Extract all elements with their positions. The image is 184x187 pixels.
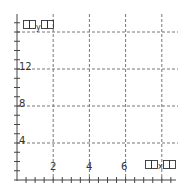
grid-lines [17,14,178,180]
y-tick-label-12: 12 [19,61,32,72]
x-axis-label: x [146,161,176,172]
x-tick-label-2: 2 [50,161,56,172]
coordinate-plot: 2 4 6 12 8 4 y x [0,0,184,187]
svg-text:x: x [158,162,163,171]
x-tick-label-4: 4 [86,161,92,172]
svg-text:y: y [36,23,41,32]
axis-ticks [14,23,171,183]
x-tick-label-6: 6 [121,161,127,172]
y-axis-label: y [24,21,54,33]
y-tick-label-8: 8 [19,98,25,109]
y-tick-label-4: 4 [19,135,25,146]
